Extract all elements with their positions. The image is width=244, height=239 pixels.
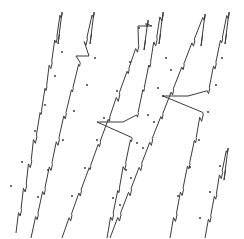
data-point-marker [136,142,138,144]
data-point-marker [54,75,56,77]
data-point-marker [142,147,144,149]
data-point-marker [73,110,75,112]
data-point-marker [44,104,46,106]
data-point-marker [34,130,36,132]
data-point-marker [198,139,200,141]
plot-canvas [0,0,244,239]
data-point-marker [138,27,140,29]
data-point-marker [96,139,98,141]
data-point-marker [165,57,167,59]
data-point-marker [84,167,86,169]
data-point-marker [129,61,131,63]
data-point-marker [199,217,201,219]
data-point-marker [189,166,191,168]
data-point-marker [116,90,118,92]
data-point-marker [119,204,121,206]
data-point-marker [177,195,179,197]
data-point-marker [153,121,155,123]
data-point-marker [219,165,221,167]
data-point-marker [62,139,64,141]
data-point-marker [157,87,159,89]
data-point-marker [61,51,63,53]
data-point-marker [209,191,211,193]
data-point-marker [47,169,49,171]
data-point-marker [94,57,96,59]
data-point-marker [86,84,88,86]
data-point-marker [103,117,105,119]
data-point-marker [221,57,223,59]
data-point-marker [162,95,164,97]
data-point-marker [112,197,114,199]
sawtooth-plot-figure [0,0,244,239]
data-point-marker [147,114,149,116]
data-point-marker [125,169,127,171]
data-point-marker [207,111,209,113]
data-point-marker [21,161,23,163]
plot-background [0,0,244,239]
data-point-marker [37,196,39,198]
data-point-marker [215,84,217,86]
data-point-marker [71,195,73,197]
data-point-marker [10,185,12,187]
data-point-marker [170,69,172,71]
data-point-marker [130,177,132,179]
